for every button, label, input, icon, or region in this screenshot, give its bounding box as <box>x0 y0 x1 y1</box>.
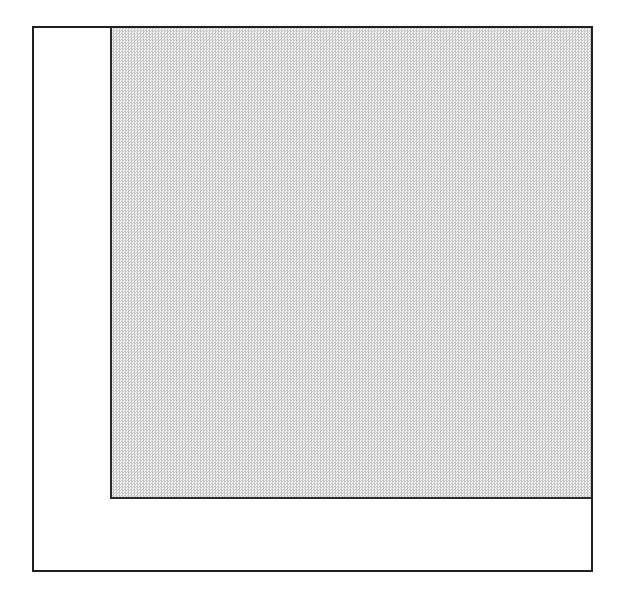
shaded-square <box>110 28 591 499</box>
figure-canvas <box>0 0 628 599</box>
outer-square <box>32 26 593 572</box>
